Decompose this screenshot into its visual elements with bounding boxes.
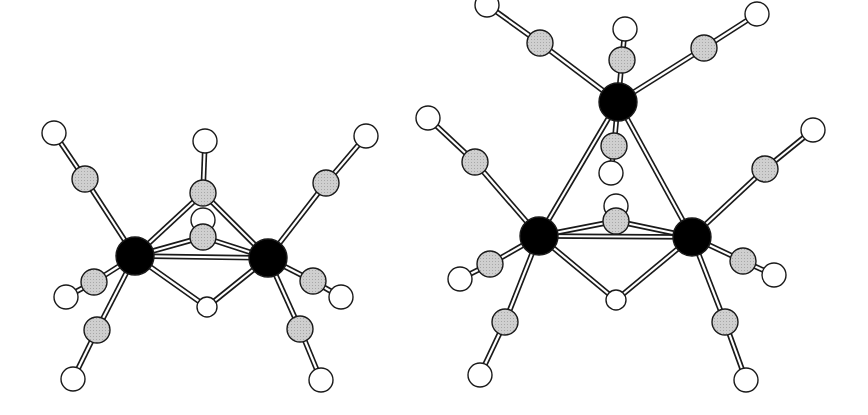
oxygen-atom-Or1: [801, 118, 825, 142]
oxygen-atom-O1: [42, 121, 66, 145]
oxygen-atom-Ot3: [745, 2, 769, 26]
carbon-atom-C3: [84, 317, 110, 343]
carbon-atom-Cb1: [190, 180, 216, 206]
left-dinuclear-cluster: [42, 121, 378, 392]
carbon-atom-Cl2: [477, 251, 503, 277]
oxygen-atom-O4: [354, 124, 378, 148]
metal-atom-M1: [116, 237, 154, 275]
carbon-atom-C5: [300, 268, 326, 294]
hydrogen-atom-H1: [197, 297, 217, 317]
carbon-atom-Cb: [603, 208, 629, 234]
oxygen-atom-Or3: [734, 368, 758, 392]
oxygen-atom-Ol3: [468, 363, 492, 387]
bond-Mt-Mr: [618, 102, 692, 237]
oxygen-atom-Ot4: [599, 161, 623, 185]
hydrogen-atom-Hb: [606, 290, 626, 310]
carbon-atom-C6: [287, 316, 313, 342]
carbon-atom-C1: [72, 166, 98, 192]
oxygen-atom-O3: [61, 367, 85, 391]
right-trinuclear-cluster: [416, 0, 825, 392]
carbon-atom-C4: [313, 170, 339, 196]
carbon-atom-Cr1: [752, 156, 778, 182]
oxygen-atom-O5: [329, 285, 353, 309]
oxygen-atom-Ol2: [448, 267, 472, 291]
metal-atom-Mt: [599, 83, 637, 121]
oxygen-atom-O6: [309, 368, 333, 392]
carbon-atom-C2: [81, 269, 107, 295]
carbon-atom-Cb2: [190, 224, 216, 250]
bond-Ml-Mr: [539, 236, 692, 237]
metal-atom-Ml: [520, 217, 558, 255]
oxygen-atom-Ob1: [193, 129, 217, 153]
oxygen-atom-Ol1: [416, 106, 440, 130]
metal-atom-M2: [249, 239, 287, 277]
carbon-atom-Ct3: [691, 35, 717, 61]
molecule-canvas: [0, 0, 868, 415]
carbon-atom-Cl1: [462, 149, 488, 175]
carbon-atom-Cr2: [730, 248, 756, 274]
carbon-atom-Ct1: [609, 47, 635, 73]
carbon-atom-Ct4: [601, 133, 627, 159]
bond-M1-M2: [135, 256, 268, 258]
carbon-atom-Cr3: [712, 309, 738, 335]
oxygen-atom-Or2: [762, 263, 786, 287]
carbon-atom-Cl3: [492, 309, 518, 335]
atom-layer: [416, 0, 825, 392]
oxygen-atom-Ot1: [613, 17, 637, 41]
metal-atom-Mr: [673, 218, 711, 256]
oxygen-atom-O2: [54, 285, 78, 309]
carbon-atom-Ct2: [527, 30, 553, 56]
oxygen-atom-Ot2: [475, 0, 499, 17]
